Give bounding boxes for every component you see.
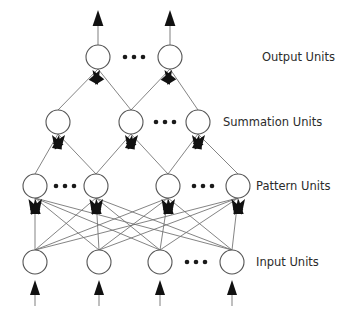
input-arrow-3 xyxy=(155,280,165,295)
pattern-ellipsis-right xyxy=(192,184,215,189)
edge-summation-1-to-output-1 xyxy=(58,69,98,110)
pattern-ellipsis-left-dot-1 xyxy=(54,184,59,189)
edge-summation-2-to-output-2 xyxy=(131,69,170,110)
summation-ellipsis-dot-2 xyxy=(163,120,168,125)
input-ellipsis-dot-2 xyxy=(194,260,199,265)
labels-group: Output UnitsSummation UnitsPattern Units… xyxy=(223,50,335,269)
output-ellipsis-dot-3 xyxy=(141,55,146,60)
input-unit-4[interactable] xyxy=(220,250,244,274)
input-unit-3[interactable] xyxy=(148,250,172,274)
summation-ellipsis-dot-1 xyxy=(154,120,159,125)
output-ellipsis-dot-2 xyxy=(132,55,137,60)
summation-ellipsis-dot-3 xyxy=(172,120,177,125)
output-ellipsis xyxy=(123,55,146,60)
output-arrow-1 xyxy=(93,10,104,26)
input-ellipsis-dot-1 xyxy=(185,260,190,265)
arrowheads-group xyxy=(29,10,246,295)
layer-label-output: Output Units xyxy=(262,50,335,64)
pattern-unit-4[interactable] xyxy=(226,174,250,198)
output-unit-1[interactable] xyxy=(86,45,110,69)
layer-label-summation: Summation Units xyxy=(223,115,322,129)
layer-label-input: Input Units xyxy=(256,255,319,269)
summation-unit-1[interactable] xyxy=(46,110,70,134)
input-unit-1[interactable] xyxy=(23,250,47,274)
edge-pattern-2-to-summation-2 xyxy=(96,134,131,174)
edges-group xyxy=(35,22,238,306)
input-unit-2[interactable] xyxy=(87,250,111,274)
nodes-group xyxy=(23,45,250,274)
summation-unit-2[interactable] xyxy=(119,110,143,134)
network-canvas: Output UnitsSummation UnitsPattern Units… xyxy=(0,0,350,309)
pattern-unit-1[interactable] xyxy=(23,174,47,198)
edge-pattern-2-to-summation-1 xyxy=(58,134,96,174)
pattern-unit-2[interactable] xyxy=(84,174,108,198)
edge-pattern-4-to-summation-3 xyxy=(198,134,238,174)
input-arrow-4 xyxy=(227,280,237,295)
output-arrow-2 xyxy=(165,10,176,26)
input-ellipsis-dot-3 xyxy=(203,260,208,265)
pattern-ellipsis-left xyxy=(54,184,77,189)
pattern-unit-3[interactable] xyxy=(156,174,180,198)
output-ellipsis-dot-1 xyxy=(123,55,128,60)
edge-summation-2-to-output-1 xyxy=(98,69,131,110)
edge-summation-3-to-output-2 xyxy=(170,69,198,110)
input-arrow-2 xyxy=(94,280,104,295)
summation-unit-3[interactable] xyxy=(186,110,210,134)
edge-input-4-to-pattern-3 xyxy=(168,198,232,250)
pattern-ellipsis-left-dot-3 xyxy=(72,184,77,189)
pattern-ellipsis-right-dot-2 xyxy=(201,184,206,189)
output-unit-2[interactable] xyxy=(158,45,182,69)
input-ellipsis xyxy=(185,260,208,265)
layer-label-pattern: Pattern Units xyxy=(256,179,330,193)
edge-input-2-to-pattern-3 xyxy=(99,198,168,250)
pattern-ellipsis-right-dot-1 xyxy=(192,184,197,189)
pattern-ellipsis-left-dot-2 xyxy=(63,184,68,189)
neural-network-diagram: Output UnitsSummation UnitsPattern Units… xyxy=(0,0,350,309)
edge-input-3-to-pattern-2 xyxy=(96,198,160,250)
pattern-ellipsis-right-dot-3 xyxy=(210,184,215,189)
input-arrow-1 xyxy=(30,280,40,295)
summation-ellipsis xyxy=(154,120,177,125)
